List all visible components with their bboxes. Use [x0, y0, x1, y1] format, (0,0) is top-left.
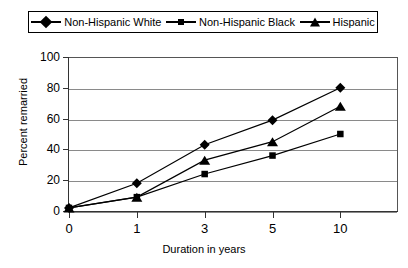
square-marker-icon — [178, 19, 184, 25]
y-axis-title: Percent remarried — [17, 47, 29, 197]
data-point-triangle — [131, 193, 142, 202]
legend-key-diamond — [31, 16, 61, 28]
legend-label: Hispanic — [333, 16, 375, 28]
data-point-diamond — [335, 83, 345, 93]
data-point-square — [337, 131, 344, 138]
series-diamond — [64, 83, 345, 213]
legend-key-square — [166, 16, 196, 28]
data-point-triangle — [199, 156, 210, 165]
x-axis-title: Duration in years — [0, 243, 408, 255]
triangle-marker-icon — [310, 18, 320, 27]
legend-item-non-hispanic-white: Non-Hispanic White — [31, 16, 161, 28]
legend-item-hispanic: Hispanic — [300, 16, 375, 28]
data-point-square — [201, 171, 208, 178]
legend-key-triangle — [300, 16, 330, 28]
legend-label: Non-Hispanic White — [64, 16, 161, 28]
line-chart: 020406080100 013510 Duration in years Pe… — [0, 38, 408, 268]
legend-item-non-hispanic-black: Non-Hispanic Black — [166, 16, 295, 28]
diamond-marker-icon — [40, 16, 53, 29]
data-point-diamond — [268, 115, 278, 125]
data-point-square — [269, 152, 276, 159]
data-point-triangle — [335, 102, 346, 111]
data-point-triangle — [267, 137, 278, 146]
chart-legend: Non-Hispanic White Non-Hispanic Black Hi… — [28, 11, 378, 33]
series-layer — [0, 38, 408, 268]
series-triangle — [64, 102, 346, 213]
data-point-diamond — [132, 178, 142, 188]
data-point-diamond — [200, 140, 210, 150]
legend-label: Non-Hispanic Black — [199, 16, 295, 28]
